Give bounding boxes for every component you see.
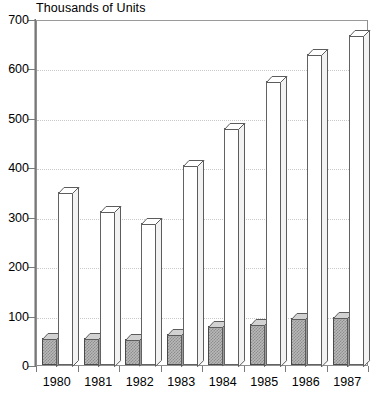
bar-shaded-1985 [250, 324, 265, 365]
bar-face [167, 334, 182, 365]
bar-white-1983 [183, 165, 198, 365]
bar-side-facet [280, 76, 287, 366]
bar-top-facet [183, 160, 198, 166]
x-axis-tick [78, 366, 79, 372]
bar-white-1982 [141, 223, 156, 365]
bar-face [208, 326, 223, 365]
bar-white-1987 [349, 35, 364, 365]
bar-face [307, 54, 322, 365]
bar-top-facet [250, 319, 265, 325]
bar-top-facet [224, 123, 239, 129]
bar-shaded-1982 [125, 339, 140, 365]
chart-title: Thousands of Units [36, 1, 146, 15]
x-axis-label: 1984 [209, 375, 237, 389]
bar-side-facet [238, 123, 245, 366]
plot-area [36, 20, 368, 366]
bar-side-facet [363, 30, 370, 366]
bar-top-facet [125, 334, 140, 340]
bar-top-facet [167, 329, 182, 335]
x-axis-tick [327, 366, 328, 372]
x-axis-tick [244, 366, 245, 372]
bar-face [100, 211, 115, 365]
bar-face [333, 317, 348, 365]
x-axis-label: 1983 [167, 375, 195, 389]
x-axis-tick [368, 366, 369, 372]
bar-top-facet [208, 321, 223, 327]
bar-side-facet [114, 206, 121, 366]
bar-top-facet [266, 76, 281, 82]
bar-top-facet [333, 312, 348, 318]
bar-face [58, 192, 73, 365]
x-axis-label: 1980 [43, 375, 71, 389]
x-axis-tick [36, 366, 37, 372]
x-axis-tick [119, 366, 120, 372]
bar-top-facet [349, 30, 364, 36]
y-axis-label: 200 [8, 260, 29, 274]
bar-top-facet [141, 218, 156, 224]
bar-face [224, 128, 239, 365]
bar-shaded-1987 [333, 317, 348, 365]
bar-white-1985 [266, 81, 281, 365]
bar-side-facet [197, 160, 204, 366]
x-axis-label: 1981 [84, 375, 112, 389]
x-axis-label: 1982 [126, 375, 154, 389]
bar-face [291, 318, 306, 365]
bar-shaded-1980 [42, 338, 57, 365]
y-axis-label: 100 [8, 310, 29, 324]
bar-face [42, 338, 57, 365]
y-axis-label: 500 [8, 112, 29, 126]
bar-face [349, 35, 364, 365]
y-axis-label: 700 [8, 13, 29, 27]
x-axis-label: 1986 [292, 375, 320, 389]
bar-shaded-1981 [84, 338, 99, 365]
y-axis-tick [28, 366, 35, 367]
bar-white-1980 [58, 192, 73, 365]
bar-side-facet [72, 187, 79, 366]
bar-top-facet [58, 187, 73, 193]
bar-top-facet [307, 49, 322, 55]
bar-top-facet [42, 333, 57, 339]
x-axis-label: 1987 [333, 375, 361, 389]
bar-white-1986 [307, 54, 322, 365]
bar-side-facet [155, 218, 162, 366]
bar-face [183, 165, 198, 365]
bar-white-1981 [100, 211, 115, 365]
bar-face [84, 338, 99, 365]
bar-white-1984 [224, 128, 239, 365]
x-axis-tick [202, 366, 203, 372]
bar-face [125, 339, 140, 365]
x-axis-tick [161, 366, 162, 372]
y-axis-label: 0 [22, 359, 29, 373]
bar-shaded-1983 [167, 334, 182, 365]
bar-chart: Thousands of Units 010020030040050060070… [0, 0, 378, 405]
bar-top-facet [291, 313, 306, 319]
y-axis-label: 600 [8, 62, 29, 76]
bar-face [141, 223, 156, 365]
x-axis-label: 1985 [250, 375, 278, 389]
bar-face [266, 81, 281, 365]
bar-shaded-1986 [291, 318, 306, 365]
bar-top-facet [100, 206, 115, 212]
y-axis-label: 300 [8, 211, 29, 225]
bar-face [250, 324, 265, 365]
bar-side-facet [321, 49, 328, 366]
bar-top-facet [84, 333, 99, 339]
x-axis-tick [285, 366, 286, 372]
bar-shaded-1984 [208, 326, 223, 365]
y-axis-label: 400 [8, 161, 29, 175]
